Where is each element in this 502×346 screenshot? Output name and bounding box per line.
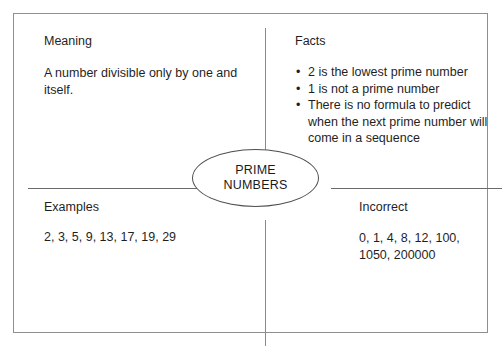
list-item-label: 2 is the lowest prime number <box>308 65 468 79</box>
list-item-label: There is no formula to predict when the … <box>308 98 487 145</box>
quadrant-incorrect: Incorrect 0, 1, 4, 8, 12, 100, 1050, 200… <box>359 200 494 263</box>
quadrant-examples: Examples 2, 3, 5, 9, 13, 17, 19, 29 <box>44 200 254 246</box>
quadrant-examples-body: 2, 3, 5, 9, 13, 17, 19, 29 <box>44 229 254 246</box>
center-concept-ellipse: PRIME NUMBERS <box>192 149 319 207</box>
quadrant-incorrect-heading: Incorrect <box>359 200 494 215</box>
quadrant-meaning-body: A number divisible only by one and itsel… <box>44 65 244 98</box>
vertical-divider-bottom <box>265 220 266 346</box>
list-item: • 1 is not a prime number <box>295 81 490 98</box>
quadrant-incorrect-body: 0, 1, 4, 8, 12, 100, 1050, 200000 <box>359 230 494 263</box>
list-item: • There is no formula to predict when th… <box>295 97 490 147</box>
list-item: • 2 is the lowest prime number <box>295 64 490 81</box>
quadrant-meaning: Meaning A number divisible only by one a… <box>44 34 244 98</box>
bullet-icon: • <box>296 97 300 114</box>
quadrant-meaning-heading: Meaning <box>44 34 244 49</box>
facts-list: • 2 is the lowest prime number • 1 is no… <box>295 64 490 147</box>
vertical-divider-top <box>265 28 266 165</box>
horizontal-divider-left <box>28 188 207 189</box>
quadrant-facts: Facts • 2 is the lowest prime number • 1… <box>295 34 490 147</box>
bullet-icon: • <box>296 64 300 81</box>
center-concept-label-line-2: NUMBERS <box>224 178 288 193</box>
center-concept-label-line-1: PRIME <box>235 163 276 178</box>
list-item-label: 1 is not a prime number <box>308 82 439 96</box>
quadrant-facts-heading: Facts <box>295 34 490 49</box>
horizontal-divider-right <box>331 188 502 189</box>
bullet-icon: • <box>296 81 300 98</box>
